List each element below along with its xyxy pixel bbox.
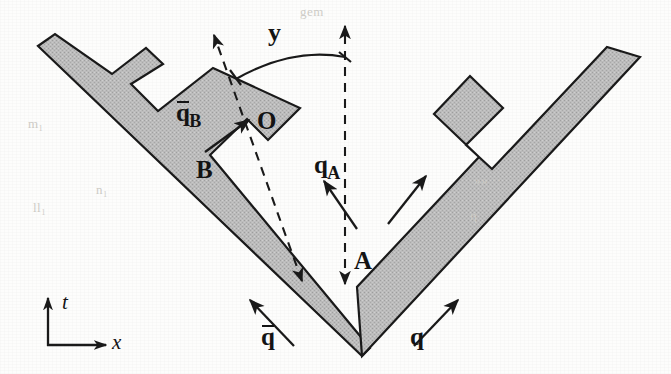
arrow-q-A xyxy=(324,181,357,229)
label-q-right: q xyxy=(410,324,424,349)
label-point-O: O xyxy=(257,108,276,133)
angle-arc-group xyxy=(230,52,351,85)
left-band-group xyxy=(38,34,370,356)
left-band-shape xyxy=(38,34,370,356)
right-band-group xyxy=(357,47,640,356)
label-angle-y: y xyxy=(268,20,281,46)
label-axis-t: t xyxy=(62,292,68,313)
q-bar-left-glyph: q xyxy=(261,324,275,349)
q-bar-B-subscript: B xyxy=(189,111,201,131)
label-point-B: B xyxy=(196,157,213,182)
spacetime-diagram xyxy=(0,0,671,374)
label-q-bar-B: qB xyxy=(176,100,201,130)
q-A-subscript: A xyxy=(327,163,340,183)
axis-key-group xyxy=(47,298,106,346)
label-q-A: qA xyxy=(314,152,340,182)
label-axis-x: x xyxy=(112,332,121,353)
figure-canvas: gem m₁ ll₁ n₁ »» ·· η y O B A qB qA q q … xyxy=(0,0,671,374)
arrow-q-A-partner xyxy=(388,176,426,224)
angle-arc-y xyxy=(236,55,345,79)
label-q-bar-left: q xyxy=(261,324,275,349)
right-band-shape xyxy=(357,47,640,356)
q-A-glyph: q xyxy=(314,151,328,178)
label-point-A: A xyxy=(354,248,372,273)
q-bar-B-glyph: q xyxy=(176,100,190,125)
